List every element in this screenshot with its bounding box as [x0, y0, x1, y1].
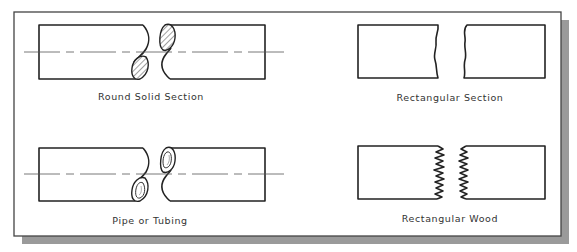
frame-border	[14, 12, 561, 236]
frame	[14, 12, 569, 244]
break-symbols-diagram: Round Solid Section Rectangular Section …	[0, 0, 577, 252]
label-rectangular: Rectangular Section	[397, 92, 504, 103]
label-round-solid: Round Solid Section	[98, 91, 204, 102]
label-pipe: Pipe or Tubing	[112, 215, 187, 226]
label-rect-wood: Rectangular Wood	[402, 213, 498, 224]
